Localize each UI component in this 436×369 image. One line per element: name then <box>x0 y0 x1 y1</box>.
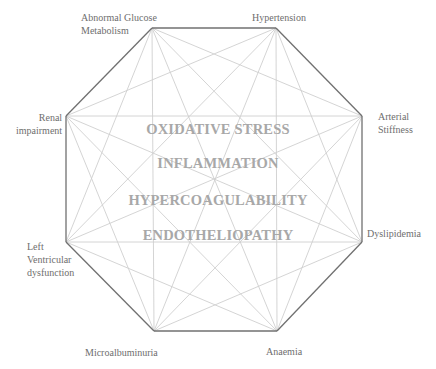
diagonal-line <box>66 28 276 116</box>
diagonal-line <box>154 242 362 331</box>
octagon-edge <box>66 28 152 116</box>
octagon-edge <box>276 28 362 116</box>
label-abnormal-glucose-metabolism: Abnormal Glucose Metabolism <box>81 11 157 37</box>
octagon-edge <box>66 242 154 331</box>
center-label-inflammation: INFLAMMATION <box>0 155 436 172</box>
center-label-endotheliopathy: ENDOTHELIOPATHY <box>0 227 436 244</box>
diagonal-line <box>66 116 277 331</box>
octagon-outline <box>66 28 362 331</box>
center-label-oxidative-stress: OXIDATIVE STRESS <box>0 121 436 138</box>
label-left-ventricular-dysfunction: Left Ventricular dysfunction <box>27 240 74 279</box>
label-anaemia: Anaemia <box>266 345 302 358</box>
diagonal-connections <box>66 28 362 331</box>
diagonal-line <box>152 28 362 116</box>
diagonal-line <box>152 28 154 331</box>
label-microalbuminuria: Microalbuminuria <box>85 346 158 359</box>
diagonal-line <box>276 28 277 331</box>
diagonal-line <box>154 116 362 331</box>
octagon-network-diagram <box>0 0 436 369</box>
octagon-edge <box>277 242 362 331</box>
label-hypertension: Hypertension <box>252 11 306 24</box>
center-label-hypercoagulability: HYPERCOAGULABILITY <box>0 192 436 209</box>
